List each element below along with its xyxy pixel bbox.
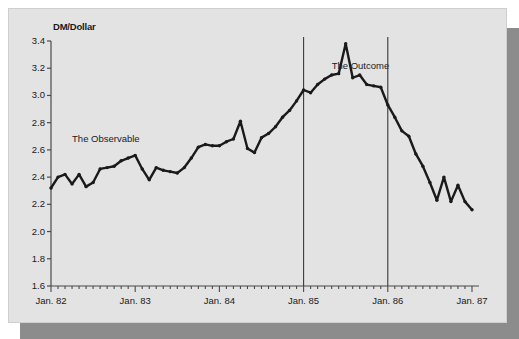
data-point-marker: [98, 167, 101, 170]
data-point-marker: [63, 173, 66, 176]
chart-plot-area: [9, 9, 506, 322]
data-point-marker: [449, 200, 452, 203]
chart-figure: DM/Dollar 3.43.23.02.82.62.42.22.01.81.6…: [0, 0, 519, 339]
data-point-marker: [56, 175, 59, 178]
data-point-marker: [309, 91, 312, 94]
data-point-marker: [414, 152, 417, 155]
data-point-marker: [126, 156, 129, 159]
data-point-marker: [288, 109, 291, 112]
data-point-marker: [49, 186, 52, 189]
data-point-marker: [400, 129, 403, 132]
data-point-marker: [232, 137, 235, 140]
data-point-marker: [435, 199, 438, 202]
data-point-marker: [70, 182, 73, 185]
chart-panel: DM/Dollar 3.43.23.02.82.62.42.22.01.81.6…: [8, 8, 507, 323]
data-point-marker: [344, 42, 347, 45]
data-point-marker: [302, 88, 305, 91]
data-point-marker: [84, 185, 87, 188]
data-point-marker: [281, 116, 284, 119]
data-point-marker: [141, 167, 144, 170]
data-line: [51, 44, 472, 210]
data-point-marker: [162, 169, 165, 172]
data-point-marker: [91, 181, 94, 184]
data-point-marker: [239, 120, 242, 123]
data-point-marker: [204, 143, 207, 146]
data-point-marker: [274, 125, 277, 128]
data-point-marker: [428, 181, 431, 184]
data-point-marker: [295, 99, 298, 102]
data-point-marker: [119, 159, 122, 162]
data-point-marker: [148, 178, 151, 181]
data-point-marker: [330, 73, 333, 76]
data-point-marker: [211, 144, 214, 147]
data-point-marker: [169, 170, 172, 173]
data-point-marker: [218, 144, 221, 147]
data-point-marker: [253, 151, 256, 154]
data-point-marker: [365, 83, 368, 86]
data-point-marker: [463, 200, 466, 203]
data-point-marker: [358, 73, 361, 76]
data-point-marker: [246, 147, 249, 150]
data-point-marker: [133, 154, 136, 157]
data-point-marker: [393, 116, 396, 119]
data-point-marker: [323, 77, 326, 80]
data-point-marker: [190, 156, 193, 159]
data-point-marker: [105, 166, 108, 169]
data-point-marker: [386, 103, 389, 106]
data-point-marker: [372, 84, 375, 87]
data-point-marker: [77, 173, 80, 176]
data-point-marker: [470, 208, 473, 211]
data-point-marker: [260, 136, 263, 139]
data-point-marker: [183, 166, 186, 169]
data-point-marker: [176, 171, 179, 174]
data-point-marker: [351, 76, 354, 79]
data-point-marker: [267, 132, 270, 135]
data-point-marker: [407, 135, 410, 138]
data-point-marker: [337, 72, 340, 75]
data-point-marker: [379, 86, 382, 89]
data-point-marker: [225, 140, 228, 143]
data-point-marker: [442, 175, 445, 178]
data-point-marker: [421, 165, 424, 168]
data-point-marker: [456, 184, 459, 187]
data-point-marker: [112, 165, 115, 168]
data-point-marker: [155, 166, 158, 169]
data-point-marker: [316, 83, 319, 86]
data-point-marker: [197, 145, 200, 148]
